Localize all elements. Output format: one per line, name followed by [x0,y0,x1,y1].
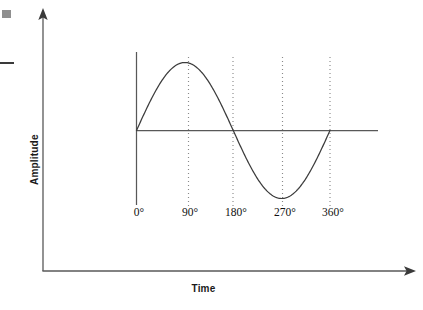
x-tick-label: 90° [182,206,198,218]
x-axis-title: Time [0,283,415,294]
x-tick-label: 270° [274,206,296,218]
guide-lines [189,57,331,207]
x-tick-label: 180° [225,206,247,218]
main-axes [42,16,408,271]
x-tick-label: 0° [134,206,144,218]
figure-canvas: Amplitude Time 0°90°180°270°360° [0,0,423,310]
x-tick-label: 360° [322,206,344,218]
sine-wave-figure [0,0,423,310]
y-axis-title: Amplitude [29,134,40,185]
